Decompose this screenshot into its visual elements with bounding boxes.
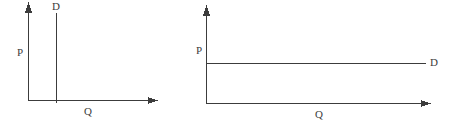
chart-perfectly-elastic-demand: P Q D	[0, 0, 455, 134]
right-price-axis-label: P	[196, 45, 202, 56]
diagram-canvas: P Q D P Q D	[0, 0, 455, 134]
right-demand-curve-label: D	[430, 57, 438, 68]
right-quantity-axis-label: Q	[315, 109, 323, 120]
right-chart-svg	[0, 0, 455, 134]
right-y-axis-arrowhead	[204, 7, 209, 15]
right-x-axis-arrowhead	[421, 101, 429, 106]
